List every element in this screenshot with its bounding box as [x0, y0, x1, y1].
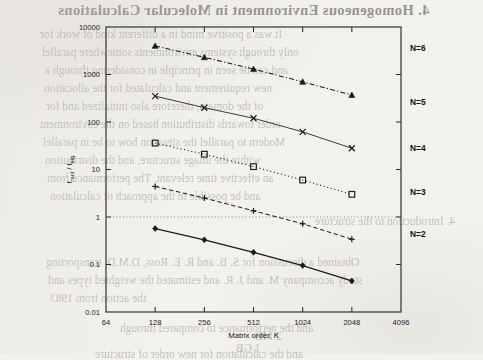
- series-label-N3: N=3: [410, 187, 426, 197]
- series-label-N4: N=4: [410, 143, 426, 153]
- x-tick-label: 512: [247, 318, 260, 327]
- x-tick-label: 4096: [393, 318, 410, 327]
- series-marker-N4: [152, 140, 158, 146]
- x-axis-title: Matrix order, K: [228, 331, 279, 340]
- x-tick-label: 2048: [343, 318, 360, 327]
- series-line-N4: [155, 143, 352, 194]
- series-marker-N2: [349, 278, 354, 284]
- series-marker-N4: [251, 164, 257, 170]
- y-axis-title-text: tmol / teig: [65, 156, 75, 183]
- y-tick-label: 0.01: [85, 308, 100, 317]
- series-line-N5: [155, 96, 352, 148]
- series-marker-N6: [152, 43, 158, 48]
- series-label-N6: N=6: [410, 43, 426, 53]
- y-tick-label: 10: [92, 165, 100, 174]
- x-tick-label: 128: [149, 318, 162, 327]
- x-tick-label: 256: [198, 318, 211, 327]
- series-marker-N4: [349, 191, 355, 197]
- series-label-N2: N=2: [410, 229, 426, 239]
- y-tick-label: 1000: [83, 70, 100, 79]
- y-axis-title: tmol / teig: [65, 156, 75, 183]
- y-tick-label: 1: [96, 213, 100, 222]
- series-marker-N2: [153, 226, 158, 232]
- series-label-N5: N=5: [410, 97, 426, 107]
- y-tick-label: 0.1: [89, 260, 100, 269]
- series-marker-N2: [300, 263, 305, 269]
- series-marker-N6: [349, 92, 355, 97]
- y-tick-label: 10000: [79, 23, 100, 32]
- x-tick-label: 64: [102, 318, 110, 327]
- y-tick-label: 100: [87, 118, 100, 127]
- series-marker-N2: [202, 237, 207, 243]
- series-marker-N2: [251, 249, 256, 255]
- x-tick-label: 1024: [294, 318, 311, 327]
- series-marker-N6: [201, 54, 207, 59]
